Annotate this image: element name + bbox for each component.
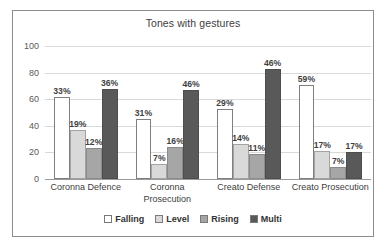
bar[interactable] (346, 152, 362, 179)
bar[interactable] (233, 144, 249, 179)
chart-container: Tones with gestures 100806040200 33%19%1… (12, 10, 374, 237)
bar-value-label: 19% (69, 119, 86, 129)
x-axis-category-label: Coronna Prosecution (127, 182, 209, 205)
bar-slot: 46% (183, 46, 199, 179)
bar[interactable] (136, 119, 152, 179)
bar-slot: 7% (330, 46, 346, 179)
legend-item-rising[interactable]: Rising (200, 214, 239, 224)
bar-value-label: 46% (182, 79, 199, 89)
x-axis-category-label: Creato Defense (208, 182, 290, 205)
legend-item-level[interactable]: Level (155, 214, 189, 224)
bar-slot: 12% (86, 46, 102, 179)
bar-slot: 31% (136, 46, 152, 179)
bar[interactable] (86, 148, 102, 179)
chart-title: Tones with gestures (13, 17, 373, 29)
y-axis-tick-label: 80 (29, 68, 39, 78)
bar-slot: 46% (265, 46, 281, 179)
plot-area: 100806040200 33%19%12%36%31%7%16%46%29%1… (45, 46, 371, 179)
bar-group: 29%14%11%46% (208, 46, 290, 179)
bar-group: 59%17%7%17% (290, 46, 372, 179)
bar[interactable] (299, 85, 315, 179)
y-axis-tick-label: 20 (29, 147, 39, 157)
legend-swatch-icon (155, 215, 163, 223)
chart-legend: FallingLevelRisingMulti (13, 214, 373, 224)
bar-slot: 16% (167, 46, 183, 179)
axis-baseline: 0 (45, 179, 371, 180)
legend-label: Multi (261, 214, 282, 224)
bar-value-label: 29% (216, 98, 233, 108)
bar-slot: 59% (299, 46, 315, 179)
bar-value-label: 14% (232, 133, 249, 143)
y-axis-tick-label: 40 (29, 121, 39, 131)
bar-slot: 14% (233, 46, 249, 179)
bar-value-label: 31% (135, 108, 152, 118)
bar-value-label: 46% (264, 58, 281, 68)
bar-value-label: 16% (167, 136, 184, 146)
bar[interactable] (330, 167, 346, 179)
bar[interactable] (265, 69, 281, 179)
x-axis-category-label: Coronna Defence (45, 182, 127, 205)
bar-value-label: 59% (298, 74, 315, 84)
bar-value-label: 11% (248, 143, 265, 153)
x-axis-labels: Coronna DefenceCoronna ProsecutionCreato… (45, 182, 371, 205)
bar-group: 33%19%12%36% (45, 46, 127, 179)
bar[interactable] (183, 90, 199, 179)
legend-swatch-icon (104, 215, 112, 223)
bar-slot: 19% (70, 46, 86, 179)
bar-slot: 7% (151, 46, 167, 179)
y-axis-tick-label: 0 (34, 174, 39, 184)
bar-value-label: 17% (314, 140, 331, 150)
bar-slot: 17% (346, 46, 362, 179)
bar[interactable] (314, 151, 330, 179)
bar-slot: 33% (54, 46, 70, 179)
bar-slot: 17% (314, 46, 330, 179)
bar-groups: 33%19%12%36%31%7%16%46%29%14%11%46%59%17… (45, 46, 371, 179)
legend-item-multi[interactable]: Multi (250, 214, 282, 224)
bar[interactable] (217, 109, 233, 179)
bar[interactable] (249, 154, 265, 179)
bar-value-label: 7% (153, 153, 165, 163)
bar[interactable] (54, 97, 70, 179)
legend-item-falling[interactable]: Falling (104, 214, 144, 224)
x-axis-category-label: Creato Prosecution (290, 182, 372, 205)
bar-slot: 11% (249, 46, 265, 179)
bar-value-label: 36% (101, 78, 118, 88)
legend-label: Level (166, 214, 189, 224)
y-axis-tick-label: 100 (24, 41, 39, 51)
bar-value-label: 33% (53, 86, 70, 96)
bar[interactable] (167, 147, 183, 179)
legend-label: Falling (115, 214, 144, 224)
bar[interactable] (102, 89, 118, 179)
y-axis-tick-label: 60 (29, 94, 39, 104)
bar-value-label: 17% (345, 141, 362, 151)
legend-swatch-icon (200, 215, 208, 223)
bar-slot: 36% (102, 46, 118, 179)
bar-value-label: 7% (332, 156, 344, 166)
legend-label: Rising (211, 214, 239, 224)
bar-group: 31%7%16%46% (127, 46, 209, 179)
legend-swatch-icon (250, 215, 258, 223)
bar[interactable] (70, 130, 86, 179)
bar[interactable] (151, 164, 167, 179)
bar-slot: 29% (217, 46, 233, 179)
bar-value-label: 12% (85, 137, 102, 147)
